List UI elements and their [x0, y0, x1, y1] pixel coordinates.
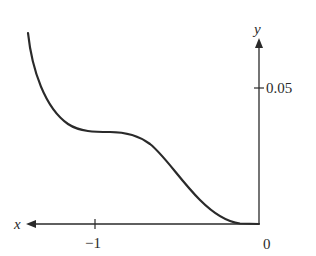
x-axis-arrow-icon	[26, 220, 36, 228]
x-tick-label-0: 0	[263, 236, 271, 252]
x-tick-label-neg1: −1	[85, 235, 101, 251]
chart: x y −1 0 0.05	[0, 0, 316, 256]
data-curve	[28, 33, 259, 224]
y-tick-label-005: 0.05	[266, 80, 292, 96]
x-axis-label: x	[13, 216, 21, 232]
y-axis-label: y	[252, 21, 261, 37]
y-axis-arrow-icon	[255, 38, 263, 48]
